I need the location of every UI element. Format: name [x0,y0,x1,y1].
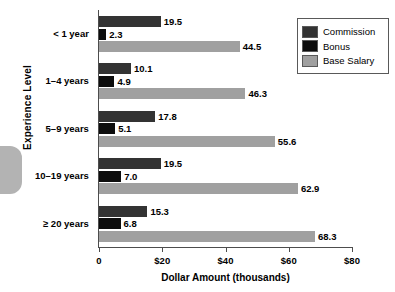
legend-label-bonus: Bonus [323,41,350,52]
bar-value-label: 55.6 [277,136,298,147]
x-tick [352,247,353,252]
category-label: 1–4 years [46,75,89,86]
legend-item-base-salary: Base Salary [302,55,383,67]
x-tick [289,247,290,252]
bar-value-label: 44.5 [242,41,263,52]
category-label: 10–19 years [35,170,89,181]
bar-value-label: 15.3 [149,206,170,217]
bar-value-label: 4.9 [116,76,131,87]
bar[interactable] [99,16,161,27]
x-axis-title: Dollar Amount (thousands) [99,272,352,283]
bar[interactable] [99,76,114,87]
bar[interactable] [99,136,275,147]
bar-value-label: 10.1 [133,63,154,74]
bar-value-label: 5.1 [117,123,132,134]
bar[interactable] [99,123,115,134]
bar[interactable] [99,158,161,169]
x-tick-label: 0 [96,255,101,266]
x-tick-label: $40 [218,255,234,266]
bar-group: 5–9 years17.85.155.6 [99,105,352,152]
x-tick-label: $80 [344,255,360,266]
category-label: 5–9 years [46,123,89,134]
legend-swatch-base-salary [302,55,318,67]
x-tick-label: $60 [281,255,297,266]
category-label: < 1 year [53,28,89,39]
x-tick [162,247,163,252]
bar-value-label: 17.8 [157,111,178,122]
legend-item-bonus: Bonus [302,40,383,52]
bar[interactable] [99,111,155,122]
bar[interactable] [99,63,131,74]
bar[interactable] [99,206,147,217]
x-tick [226,247,227,252]
bar-value-label: 19.5 [163,158,184,169]
bar-group: ≥ 20 years15.36.868.3 [99,200,352,247]
legend-swatch-bonus [302,40,318,52]
bar[interactable] [99,171,121,182]
bar-value-label: 19.5 [163,16,184,27]
legend: Commission Bonus Base Salary [297,18,389,74]
bar-value-label: 7.0 [123,171,138,182]
bar-value-label: 46.3 [247,88,268,99]
legend-label-commission: Commission [323,26,375,37]
bar-value-label: 62.9 [300,183,321,194]
bar[interactable] [99,29,106,40]
edge-artifact-shape [0,146,22,194]
x-tick-label: $20 [154,255,170,266]
bar-value-label: 68.3 [317,231,338,242]
bar[interactable] [99,218,121,229]
bar-group: 10–19 years19.57.062.9 [99,152,352,199]
bar[interactable] [99,88,245,99]
bar-chart: Experience Level 0$20$40$60$80< 1 year19… [0,0,395,292]
legend-label-base-salary: Base Salary [323,55,374,66]
bar[interactable] [99,41,240,52]
legend-swatch-commission [302,26,318,38]
bar[interactable] [99,231,315,242]
x-tick [99,247,100,252]
legend-item-commission: Commission [302,26,383,38]
bar-value-label: 2.3 [108,29,123,40]
bar[interactable] [99,183,298,194]
bar-value-label: 6.8 [123,218,138,229]
y-axis-title: Experience Level [22,43,33,173]
category-label: ≥ 20 years [43,218,89,229]
